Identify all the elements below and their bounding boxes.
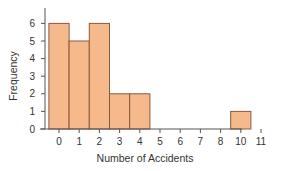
- bar-10: [231, 111, 251, 129]
- x-tick-label: 11: [256, 136, 267, 147]
- x-tick-label: 0: [56, 136, 62, 147]
- x-tick-label: 1: [76, 136, 82, 147]
- y-tick-label: 2: [29, 88, 35, 99]
- x-tick-label: 10: [235, 136, 247, 147]
- bar-3: [110, 94, 130, 129]
- x-tick-label: 4: [137, 136, 143, 147]
- y-ticks: 0123456: [29, 18, 45, 135]
- x-tick-label: 6: [177, 136, 183, 147]
- y-tick-label: 3: [29, 71, 35, 82]
- histogram-chart: 0123456 0123456781011 Number of Accident…: [0, 0, 284, 171]
- bar-2: [89, 23, 109, 129]
- y-tick-label: 1: [29, 106, 35, 117]
- bar-0: [49, 23, 69, 129]
- x-tick-label: 2: [97, 136, 103, 147]
- y-tick-label: 5: [29, 36, 35, 47]
- x-axis-title: Number of Accidents: [97, 152, 194, 164]
- x-ticks: 0123456781011: [56, 129, 266, 147]
- bars-group: [49, 23, 251, 129]
- x-tick-label: 7: [198, 136, 204, 147]
- x-tick-label: 3: [117, 136, 123, 147]
- y-tick-label: 6: [29, 18, 35, 29]
- bar-1: [69, 41, 89, 129]
- y-axis-title: Frequency: [7, 50, 19, 100]
- y-tick-label: 4: [29, 53, 35, 64]
- bar-4: [130, 94, 150, 129]
- y-tick-label: 0: [29, 124, 35, 135]
- x-tick-label: 5: [157, 136, 163, 147]
- x-tick-label: 8: [218, 136, 224, 147]
